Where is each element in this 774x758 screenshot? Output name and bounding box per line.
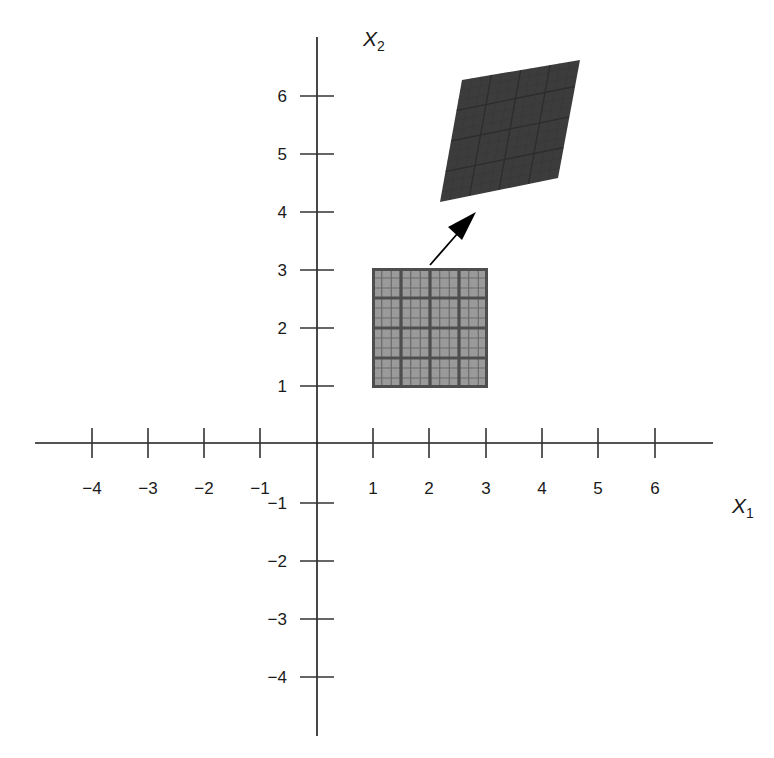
transformation-arrow-icon (430, 212, 476, 265)
y-tick-label: 2 (278, 319, 287, 338)
y-tick-label: −2 (268, 552, 287, 571)
y-tick-label: −1 (268, 494, 287, 513)
x-tick-label: −3 (138, 479, 157, 498)
original-square (372, 268, 488, 388)
y-tick-label: −4 (268, 668, 287, 687)
y-tick-label: 3 (278, 261, 287, 280)
y-tick-labels: 6 5 4 3 2 1 −1 −2 −3 −4 (268, 87, 287, 687)
x-tick-label: −2 (194, 479, 213, 498)
y-tick-label: 5 (278, 145, 287, 164)
x-tick-label: 1 (368, 479, 377, 498)
x-tick-labels: −4 −3 −2 −1 1 2 3 4 5 6 (82, 479, 659, 498)
y-tick-label: 6 (278, 87, 287, 106)
x-tick-label: 2 (424, 479, 433, 498)
x-tick-label: 3 (481, 479, 490, 498)
y-tick-label: 4 (278, 203, 287, 222)
transformation-diagram: −4 −3 −2 −1 1 2 3 4 5 6 6 5 4 3 2 1 −1 −… (0, 0, 774, 758)
y-axis-label: X2 (362, 27, 385, 54)
x-tick-label: 5 (593, 479, 602, 498)
x-axis-label: X1 (731, 494, 754, 521)
y-tick-label: −3 (268, 610, 287, 629)
x-tick-label: 6 (650, 479, 659, 498)
x-tick-label: 4 (537, 479, 546, 498)
x-tick-label: −4 (82, 479, 101, 498)
y-tick-label: 1 (278, 377, 287, 396)
transformed-parallelogram (440, 58, 580, 202)
